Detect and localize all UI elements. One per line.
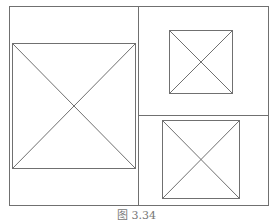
figure-caption: 图 3.34: [0, 210, 273, 220]
image-placeholder-top-right: [170, 31, 233, 94]
image-placeholder-bottom-right: [163, 121, 240, 199]
layout-diagram: [0, 0, 273, 220]
image-placeholder-left: [13, 44, 136, 169]
